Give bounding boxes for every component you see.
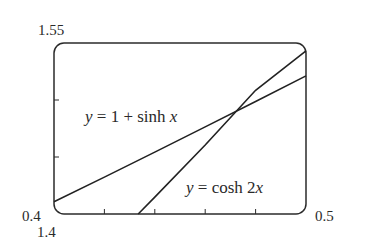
y-max-label: 1.55 — [38, 22, 64, 38]
y-min-label: 1.4 — [37, 224, 56, 240]
label-cosh-2x: y = cosh 2x — [184, 178, 264, 197]
x-max-label: 0.5 — [315, 208, 334, 224]
x-min-label: 0.4 — [22, 208, 41, 224]
curve-1-plus-sinh-x — [54, 76, 306, 202]
plot-frame — [54, 43, 306, 214]
chart: 1.55 0.4 1.4 0.5 y = 1 + sinh x y = cosh… — [0, 0, 366, 247]
label-1-plus-sinh-x: y = 1 + sinh x — [83, 107, 178, 126]
